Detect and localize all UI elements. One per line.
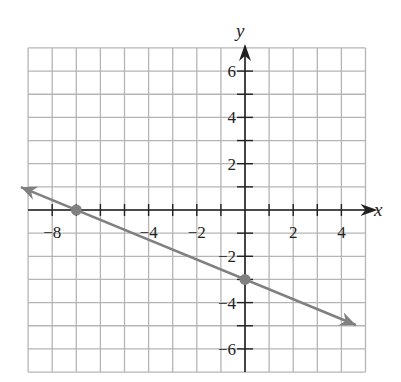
x-tick-label: −8: [43, 223, 61, 242]
y-tick-label: 6: [228, 62, 237, 81]
y-tick-label: −6: [218, 340, 236, 359]
y-axis-label: y: [234, 20, 245, 41]
y-tick-label: 2: [228, 155, 237, 174]
y-tick-label: 4: [228, 108, 237, 127]
x-axis-label: x: [373, 199, 383, 220]
y-tick-label: −2: [218, 247, 236, 266]
coordinate-plane: −8−4−224642−2−4−6 x y: [0, 0, 401, 382]
data-point: [71, 205, 82, 216]
data-point: [240, 274, 251, 285]
x-tick-label: 4: [337, 223, 346, 242]
x-tick-label: −2: [188, 223, 206, 242]
y-tick-label: −4: [218, 294, 237, 313]
x-tick-label: 2: [289, 223, 298, 242]
